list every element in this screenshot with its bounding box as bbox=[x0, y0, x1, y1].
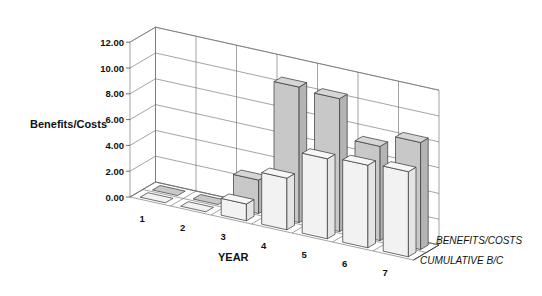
x-tick-label: 6 bbox=[342, 258, 347, 269]
y-tick-label: 12.00 bbox=[100, 37, 124, 48]
chart-canvas: 0.002.004.006.008.0010.0012.00 1234567 B… bbox=[0, 0, 542, 296]
y-tick-label: 6.00 bbox=[106, 114, 125, 125]
y-tick-label: 0.00 bbox=[106, 192, 125, 203]
x-tick-label: 7 bbox=[383, 267, 388, 278]
y-tick-label: 8.00 bbox=[106, 88, 125, 99]
x-axis-label: YEAR bbox=[218, 251, 249, 263]
bar bbox=[302, 149, 335, 239]
bar bbox=[140, 193, 173, 203]
x-tick-label: 3 bbox=[221, 231, 226, 242]
x-tick-label: 4 bbox=[261, 240, 267, 251]
chart-3d-bar: 0.002.004.006.008.0010.0012.00 1234567 B… bbox=[0, 0, 542, 296]
x-tick-label: 5 bbox=[302, 249, 308, 260]
bar bbox=[262, 168, 295, 230]
bar bbox=[181, 202, 214, 212]
y-axis-label: Benefits/Costs bbox=[30, 118, 107, 130]
bar bbox=[193, 195, 226, 205]
bar bbox=[343, 155, 376, 248]
bar bbox=[153, 186, 186, 196]
y-tick-label: 10.00 bbox=[100, 63, 124, 74]
series-label-benefits-costs: BENEFITS/COSTS bbox=[436, 235, 522, 246]
series-label-cumulative-bc: CUMULATIVE B/C bbox=[420, 255, 504, 266]
y-tick-label: 2.00 bbox=[106, 166, 125, 177]
bar bbox=[383, 162, 416, 257]
y-tick-label: 4.00 bbox=[106, 140, 125, 151]
x-tick-label: 2 bbox=[180, 222, 185, 233]
x-tick-label: 1 bbox=[140, 213, 146, 224]
